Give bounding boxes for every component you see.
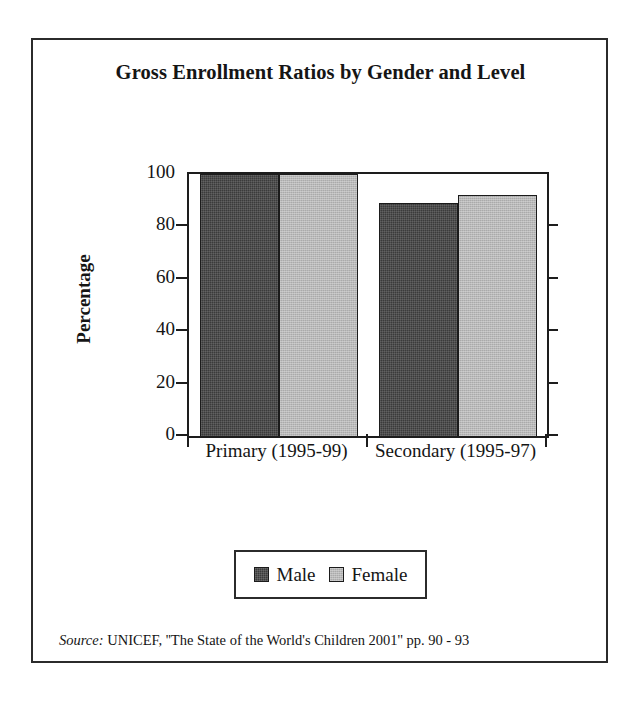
y-tick-label: 40 xyxy=(156,318,175,340)
female-swatch-icon xyxy=(329,567,344,582)
x-separator-tick xyxy=(187,434,189,447)
plot-wrapper: Percentage 020406080100 Primary (1995-99… xyxy=(33,158,610,488)
source-note: Source: UNICEF, ''The State of the World… xyxy=(59,632,469,649)
y-tick-label: 60 xyxy=(156,266,175,288)
y-tick-label-group: 020406080100 xyxy=(117,172,175,434)
chart-title: Gross Enrollment Ratios by Gender and Le… xyxy=(93,58,548,87)
bar-female-secondary xyxy=(458,195,537,436)
bar-female-primary xyxy=(279,174,358,436)
x-axis-label: Primary (1995-99) xyxy=(206,440,348,462)
y-tick-label: 100 xyxy=(147,161,176,183)
figure-frame: Gross Enrollment Ratios by Gender and Le… xyxy=(31,38,608,663)
y-tick-mark xyxy=(176,382,187,384)
legend-item-male: Male xyxy=(254,564,316,586)
x-separator-tick xyxy=(366,434,368,447)
y-tick-mark xyxy=(176,224,187,226)
y-axis-title: Percentage xyxy=(73,224,95,374)
plot-area xyxy=(187,172,549,438)
y-tick-mark xyxy=(176,277,187,279)
bar-group-primary xyxy=(200,174,358,436)
legend-label-female: Female xyxy=(352,564,408,586)
legend-label-male: Male xyxy=(277,564,316,586)
y-tick-mark xyxy=(176,434,187,436)
x-separator-tick xyxy=(545,434,547,447)
bar-male-secondary xyxy=(379,203,458,436)
source-citation: UNICEF, ''The State of the World's Child… xyxy=(104,632,470,648)
bar-group-secondary xyxy=(379,174,537,436)
bar-male-primary xyxy=(200,174,279,436)
source-keyword: Source: xyxy=(59,632,104,648)
y-tick-label: 20 xyxy=(156,371,175,393)
legend-item-female: Female xyxy=(329,564,408,586)
y-tick-label: 0 xyxy=(166,423,176,445)
chart-legend: Male Female xyxy=(234,550,427,599)
x-axis-label: Secondary (1995-97) xyxy=(375,440,536,462)
y-tick-label: 80 xyxy=(156,213,175,235)
male-swatch-icon xyxy=(254,567,269,582)
y-tick-mark xyxy=(176,329,187,331)
